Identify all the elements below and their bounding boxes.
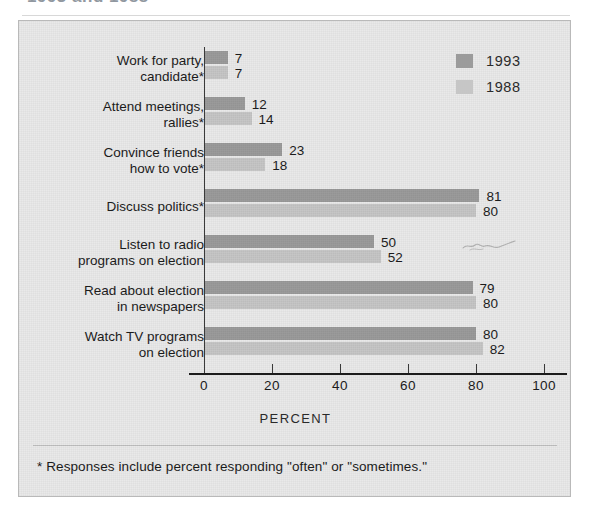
legend-swatch-1993	[456, 54, 473, 68]
bar-value-label: 80	[483, 295, 498, 310]
category-label: Convince friends how to vote*	[24, 145, 204, 177]
title-divider	[22, 15, 570, 16]
category-label: Listen to radio programs on election	[24, 237, 204, 269]
category-label: Read about election in newspapers	[24, 283, 204, 315]
x-tick-label-80: 80	[468, 378, 484, 393]
x-tick-label-40: 40	[332, 378, 348, 393]
bar-1988: 18	[204, 158, 265, 171]
bar-value-label: 52	[388, 249, 403, 264]
bar-value-label: 81	[486, 188, 501, 203]
bar-pair: 79 80	[204, 281, 476, 309]
bar-value-label: 7	[235, 50, 243, 65]
bar-pair: 23 18	[204, 143, 282, 171]
bar-1988: 80	[204, 296, 476, 309]
bar-value-label: 14	[259, 111, 274, 126]
bar-value-label: 80	[483, 326, 498, 341]
x-tick-label-100: 100	[532, 378, 556, 393]
x-tick-label-0: 0	[200, 378, 208, 393]
x-tick-0	[204, 364, 205, 373]
legend-item-1993: 1993	[456, 48, 521, 74]
legend-label-1988: 1988	[486, 79, 521, 95]
bar-1988: 82	[204, 342, 483, 355]
footnote-text: * Responses include percent responding "…	[37, 459, 427, 474]
bar-1993: 23	[204, 143, 282, 156]
bar-value-label: 80	[483, 203, 498, 218]
bar-1993: 79	[204, 281, 473, 294]
handwriting-smudge-artifact	[461, 239, 517, 253]
bar-1993: 7	[204, 51, 228, 64]
bar-1993: 81	[204, 189, 479, 202]
bar-1988: 14	[204, 112, 252, 125]
bar-value-label: 23	[289, 142, 304, 157]
category-label: Attend meetings, rallies*	[24, 99, 204, 131]
bar-pair: 12 14	[204, 97, 252, 125]
bar-1993: 12	[204, 97, 245, 110]
chart-legend: 1993 1988	[456, 48, 521, 100]
x-tick-40	[340, 364, 341, 373]
legend-item-1988: 1988	[456, 74, 521, 100]
x-tick-60	[408, 364, 409, 373]
x-tick-100	[544, 364, 545, 373]
legend-swatch-1988	[456, 80, 473, 94]
chart-panel: 1993 1988 Work for party, candidate* 7 7…	[18, 20, 571, 497]
bar-value-label: 7	[235, 65, 243, 80]
bar-1988: 52	[204, 250, 381, 263]
category-label: Watch TV programs on election	[24, 329, 204, 361]
x-tick-label-60: 60	[400, 378, 416, 393]
bar-pair: 80 82	[204, 327, 483, 355]
x-tick-80	[476, 364, 477, 373]
x-tick-20	[272, 364, 273, 373]
y-axis-line	[204, 47, 205, 369]
bar-1993: 80	[204, 327, 476, 340]
bar-value-label: 12	[252, 96, 267, 111]
bar-pair: 50 52	[204, 235, 381, 263]
x-axis-line	[189, 373, 567, 375]
bar-pair: 7 7	[204, 51, 228, 79]
bar-value-label: 50	[381, 234, 396, 249]
category-label: Work for party, candidate*	[24, 53, 204, 85]
x-tick-label-20: 20	[264, 378, 280, 393]
bar-pair: 81 80	[204, 189, 479, 217]
bar-1988: 80	[204, 204, 476, 217]
bar-1988: 7	[204, 66, 228, 79]
bar-value-label: 18	[272, 157, 287, 172]
bar-1993: 50	[204, 235, 374, 248]
x-axis-title: PERCENT	[19, 411, 572, 426]
category-label: Discuss politics*	[24, 199, 204, 215]
bar-value-label: 79	[480, 280, 495, 295]
bar-value-label: 82	[490, 341, 505, 356]
footnote-divider	[33, 445, 557, 446]
page-title: 1993 and 1988	[27, 0, 149, 7]
chart-title-strip: 1993 and 1988	[0, 0, 589, 22]
legend-label-1993: 1993	[486, 53, 521, 69]
